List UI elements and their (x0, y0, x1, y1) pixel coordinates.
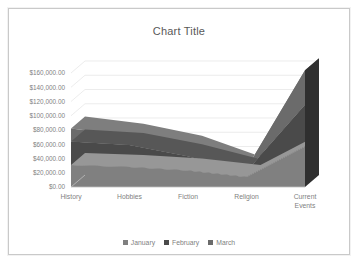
y-axis-tick-label: $60,000.00 (33, 141, 65, 148)
y-axis-tick-label: $20,000.00 (33, 169, 65, 176)
chart-plot-area[interactable]: $0.00$20,000.00$40,000.00$60,000.00$80,0… (9, 9, 351, 256)
x-axis-category-label: Fiction (178, 193, 198, 200)
y-axis-tick-label: $160,000.00 (29, 69, 65, 76)
legend-item-march[interactable]: March (208, 239, 235, 246)
square-marker-icon (208, 240, 213, 245)
x-axis-category-label: Hobbies (117, 193, 143, 200)
legend-item-february[interactable]: February (164, 239, 199, 246)
y-axis-tick-label: $40,000.00 (33, 155, 65, 162)
y-axis-tick-labels: $0.00$20,000.00$40,000.00$60,000.00$80,0… (29, 69, 65, 190)
x-axis-category-label: History (60, 193, 82, 201)
x-axis-category-label: Current (294, 193, 317, 200)
legend-item-label: February (172, 239, 199, 246)
y-axis-tick-label: $120,000.00 (29, 98, 65, 105)
y-axis-tick-label: $100,000.00 (29, 112, 65, 119)
gridline-depth-connector (71, 104, 85, 116)
chart-legend[interactable]: JanuaryFebruaryMarch (9, 239, 349, 246)
x-axis-category-labels: HistoryHobbiesFictionReligionCurrentEven… (60, 193, 316, 209)
chart-container[interactable]: Chart Title $0.00$20,000.00$40,000.00$60… (8, 8, 350, 255)
gridline-depth-connector (71, 75, 85, 87)
gridline-depth-connector (71, 61, 85, 73)
square-marker-icon (123, 240, 128, 245)
series-areas[interactable] (71, 58, 319, 187)
gridline-depth-connector (71, 90, 85, 102)
y-axis-tick-label: $0.00 (49, 183, 65, 190)
x-axis-category-label: Events (295, 202, 316, 209)
legend-item-label: January (131, 239, 155, 246)
y-axis-tick-label: $140,000.00 (29, 84, 65, 91)
legend-item-january[interactable]: January (123, 239, 155, 246)
y-axis-tick-label: $80,000.00 (33, 126, 65, 133)
legend-item-label: March (216, 239, 235, 246)
depth-end-wall (305, 58, 319, 187)
x-axis-category-label: Religion (234, 193, 259, 201)
square-marker-icon (164, 240, 169, 245)
